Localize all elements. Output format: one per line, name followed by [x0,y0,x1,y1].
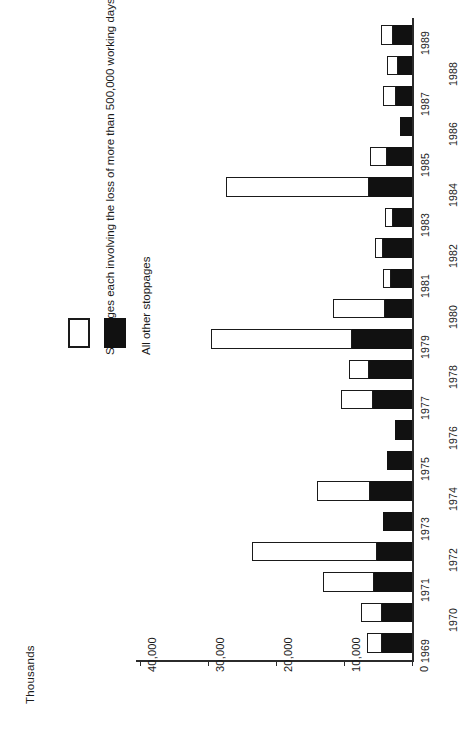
value-axis-units-title: Thousands [24,645,36,704]
bar-segment-other-stoppages [395,420,413,439]
bar-1971 [323,572,412,591]
bar-segment-other-stoppages [396,86,412,105]
bar-1972 [252,542,412,561]
category-label-1971: 1971 [419,578,431,602]
category-label-1972: 1972 [447,547,459,571]
bar-segment-other-stoppages [393,25,412,44]
bar-1975 [387,451,412,470]
value-axis-tick-label: 10,000 [350,637,362,672]
bar-segment-large-stoppages [385,208,393,227]
bar-segment-large-stoppages [333,299,385,318]
bar-segment-large-stoppages [226,177,369,196]
category-label-1982: 1982 [447,244,459,268]
category-label-1987: 1987 [419,92,431,116]
bar-segment-other-stoppages [387,147,413,166]
bar-1983 [385,208,412,227]
value-axis-tick-label: 40,000 [146,637,158,672]
bar-segment-other-stoppages [382,603,413,622]
bar-segment-other-stoppages [369,177,413,196]
bar-segment-other-stoppages [400,117,413,136]
category-label-1988: 1988 [447,61,459,85]
category-label-1986: 1986 [447,122,459,146]
bar-1989 [381,25,413,44]
bar-segment-other-stoppages [369,360,413,379]
bar-segment-other-stoppages [373,390,412,409]
bar-segment-other-stoppages [374,572,412,591]
bar-1970 [361,603,413,622]
value-axis-line [136,660,414,662]
bar-1978 [349,360,413,379]
category-label-1975: 1975 [419,456,431,480]
bar-segment-other-stoppages [383,238,413,257]
value-axis-tick [344,660,345,666]
category-label-1974: 1974 [447,487,459,511]
value-axis-tick [412,660,413,666]
category-label-1981: 1981 [419,274,431,298]
bar-segment-large-stoppages [383,86,396,105]
bar-segment-large-stoppages [252,542,377,561]
bar-segment-other-stoppages [398,56,412,75]
legend-label-other-stoppages: All other stoppages [140,257,152,355]
bar-segment-large-stoppages [211,329,352,348]
bar-1981 [383,269,412,288]
value-axis-tick-label: 20,000 [282,637,294,672]
category-label-1984: 1984 [447,183,459,207]
bar-segment-large-stoppages [387,56,399,75]
bar-1982 [375,238,412,257]
chart-root: Thousands 010,00020,00030,00040,000 1969… [0,0,473,756]
value-axis-tick [208,660,209,666]
value-axis-tick [276,660,277,666]
bar-segment-large-stoppages [323,572,374,591]
legend-swatch-other-stoppages [104,318,126,348]
category-label-1976: 1976 [447,426,459,450]
bar-segment-other-stoppages [387,451,412,470]
bar-segment-large-stoppages [370,147,387,166]
category-label-1969: 1969 [419,639,431,663]
bar-1980 [333,299,413,318]
legend-swatch-large-stoppages [68,318,90,348]
category-label-1980: 1980 [447,304,459,328]
bar-1985 [370,147,413,166]
category-label-1979: 1979 [419,335,431,359]
bar-1979 [211,329,412,348]
bar-segment-other-stoppages [391,269,413,288]
bar-segment-other-stoppages [393,208,412,227]
category-label-1978: 1978 [447,365,459,389]
value-axis-tick [140,660,141,666]
bar-segment-large-stoppages [375,238,382,257]
bar-1973 [383,512,413,531]
bar-segment-other-stoppages [352,329,413,348]
category-label-1983: 1983 [419,213,431,237]
category-label-1973: 1973 [419,517,431,541]
bar-segment-large-stoppages [349,360,369,379]
bar-segment-large-stoppages [383,269,390,288]
category-label-1985: 1985 [419,153,431,177]
value-axis-tick-label: 30,000 [214,637,226,672]
bar-1976 [395,420,413,439]
category-label-1977: 1977 [419,396,431,420]
bar-segment-other-stoppages [382,633,413,652]
bar-segment-large-stoppages [381,25,394,44]
bar-segment-large-stoppages [361,603,382,622]
bar-segment-large-stoppages [341,390,373,409]
value-axis-tick-label: 0 [418,666,430,672]
bar-1969 [367,633,413,652]
bar-segment-other-stoppages [383,512,413,531]
bar-1974 [317,481,413,500]
bar-1984 [226,177,412,196]
category-label-1970: 1970 [447,608,459,632]
bar-1987 [383,86,412,105]
legend-label-large-stoppages: Stoppages each involving the loss of mor… [104,0,116,355]
bar-1986 [400,117,413,136]
bar-1977 [341,390,412,409]
category-label-1989: 1989 [419,31,431,55]
bar-segment-large-stoppages [317,481,371,500]
bar-segment-other-stoppages [370,481,412,500]
bar-segment-other-stoppages [377,542,412,561]
bar-segment-large-stoppages [367,633,382,652]
bar-segment-other-stoppages [385,299,413,318]
bar-1988 [387,56,413,75]
